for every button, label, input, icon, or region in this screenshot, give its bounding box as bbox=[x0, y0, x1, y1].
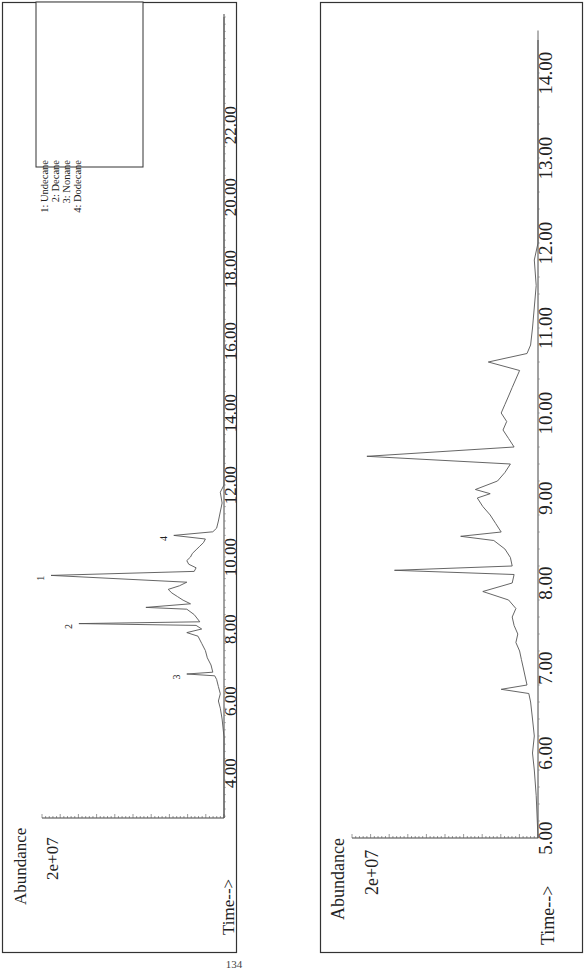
page-number: 134 bbox=[214, 958, 254, 970]
full-chromatogram-chart: 1: Undecane2: Decane3: Nonane4: Dodecane… bbox=[0, 0, 240, 958]
full-chromatogram-panel: 1: Undecane2: Decane3: Nonane4: Dodecane… bbox=[0, 0, 240, 958]
tic-line bbox=[367, 31, 538, 839]
time-axis-label: Time--> bbox=[538, 886, 558, 946]
legend-item: 1: Undecane bbox=[39, 160, 50, 213]
peak-label: 2 bbox=[63, 624, 74, 629]
legend-box bbox=[36, 2, 143, 167]
time-tick-label: 6.00 bbox=[221, 686, 240, 716]
legend-item: 3: Nonane bbox=[61, 160, 72, 204]
axes: 5.006.007.008.009.0010.0011.0012.0013.00… bbox=[328, 40, 558, 945]
expanded-chromatogram-chart: 5.006.007.008.009.0010.0011.0012.0013.00… bbox=[318, 0, 584, 958]
time-tick-label: 10.00 bbox=[221, 538, 240, 576]
expanded-chromatogram-panel: 5.006.007.008.009.0010.0011.0012.0013.00… bbox=[318, 0, 584, 958]
abundance-label: Abundance bbox=[328, 838, 348, 920]
time-tick-label: 6.00 bbox=[535, 736, 556, 769]
time-tick-label: 7.00 bbox=[535, 651, 556, 684]
time-tick-label: 9.00 bbox=[535, 481, 556, 514]
time-axis-label: Time--> bbox=[219, 879, 238, 935]
time-tick-label: 8.00 bbox=[535, 566, 556, 599]
tic-trace bbox=[367, 31, 538, 839]
abundance-label: Abundance bbox=[11, 828, 30, 905]
time-tick-label: 5.00 bbox=[535, 821, 556, 854]
abundance-tick-label: 2e+07 bbox=[43, 837, 62, 880]
abundance-tick-label: 2e+07 bbox=[362, 850, 382, 895]
legend-item: 2: Decane bbox=[50, 160, 61, 203]
peak-label: 4 bbox=[158, 536, 169, 541]
legend: 1: Undecane2: Decane3: Nonane4: Dodecane bbox=[39, 160, 83, 213]
time-tick-label: 11.00 bbox=[535, 307, 556, 349]
time-tick-label: 10.00 bbox=[535, 392, 556, 435]
time-tick-label: 8.00 bbox=[221, 614, 240, 644]
legend-item: 4: Dodecane bbox=[72, 160, 83, 213]
peak-label: 3 bbox=[171, 675, 182, 680]
peak-label: 1 bbox=[35, 576, 46, 581]
